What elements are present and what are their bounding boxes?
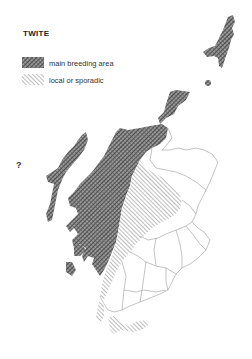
legend-item-local: local or sporadic bbox=[22, 74, 114, 86]
map-title: TWITE bbox=[23, 29, 49, 38]
galloway-local-sporadic bbox=[108, 316, 150, 334]
fair-isle bbox=[205, 80, 211, 86]
legend-swatch-main-spacer bbox=[22, 58, 44, 69]
legend-label-main: main breeding area bbox=[49, 59, 114, 68]
uncertain-record-marker: ? bbox=[16, 160, 22, 170]
scotland-map bbox=[0, 0, 252, 359]
shetland-islands bbox=[203, 15, 235, 68]
inner-hebrides bbox=[66, 244, 86, 276]
map-legend: main breeding area local or sporadic bbox=[22, 57, 114, 91]
legend-item-main: main breeding area bbox=[22, 57, 114, 69]
legend-label-local: local or sporadic bbox=[49, 76, 104, 85]
legend-swatch-local-spacer bbox=[22, 75, 44, 86]
kintyre-local-sporadic bbox=[96, 300, 104, 324]
orkney-islands bbox=[158, 90, 190, 124]
